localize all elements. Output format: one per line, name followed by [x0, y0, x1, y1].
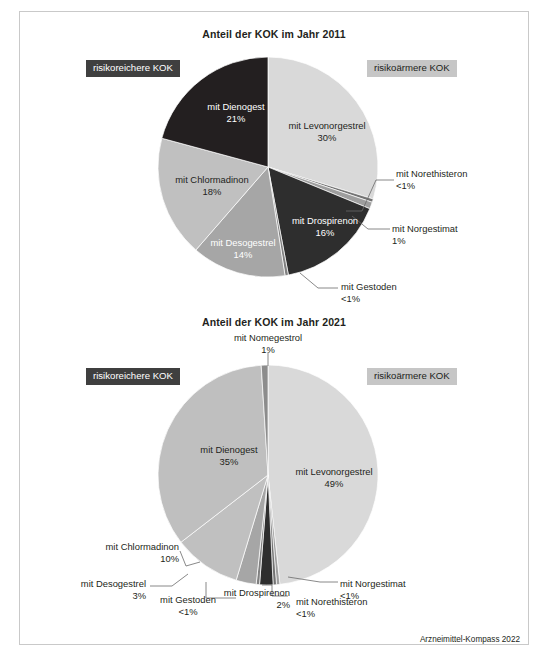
chart2-drospirenon-name: mit Drospirenon: [224, 587, 290, 598]
chart2-nomegestrol-pct: 1%: [213, 344, 323, 356]
chart2-norethisteron-pct: <1%: [296, 608, 367, 620]
chart2-slice-label-dienogest: mit Dienogest 35%: [177, 444, 281, 467]
chart2-dienogest-pct: 35%: [177, 456, 281, 468]
chart2-callout-label-drospirenon: mit Drospirenon 2%: [186, 587, 290, 610]
chart2-dienogest-name: mit Dienogest: [200, 444, 257, 455]
chart2-callout-label-chlormadinon: mit Chlormadinon 10%: [66, 541, 179, 564]
chart2-desogestrel-name: mit Desogestrel: [81, 578, 146, 589]
chart2-callout-label-nomegestrol: mit Nomegestrol 1%: [213, 332, 323, 355]
chart2-slice-label-levonorgestrel: mit Levonorgestrel 49%: [278, 466, 390, 489]
chart2-callout-label-desogestrel: mit Desogestrel 3%: [38, 578, 146, 601]
chart2-callout-label-norgestimat: mit Norgestimat <1%: [340, 578, 406, 601]
callout-leader-line: [150, 574, 188, 586]
chart2-norgestimat-name: mit Norgestimat: [340, 578, 406, 589]
chart2-desogestrel-pct: 3%: [38, 590, 146, 602]
chart2-legend-lower-risk: risikoärmere KOK: [367, 368, 457, 385]
chart2-legend-higher-risk: risikoreichere KOK: [86, 368, 180, 385]
chart2-levonorgestrel-name: mit Levonorgestrel: [295, 466, 372, 477]
chart2-nomegestrol-name: mit Nomegestrol: [234, 332, 302, 343]
figure-source-note: Arzneimittel-Kompass 2022: [420, 635, 520, 644]
chart2-norgestimat-pct: <1%: [340, 590, 406, 602]
chart2-chlormadinon-name: mit Chlormadinon: [106, 541, 179, 552]
figure-root: Anteil der KOK im Jahr 2011 risikoreiche…: [0, 0, 548, 662]
chart2-levonorgestrel-pct: 49%: [278, 478, 390, 490]
chart2-drospirenon-pct: 2%: [186, 599, 290, 611]
chart2-chlormadinon-pct: 10%: [66, 553, 179, 565]
